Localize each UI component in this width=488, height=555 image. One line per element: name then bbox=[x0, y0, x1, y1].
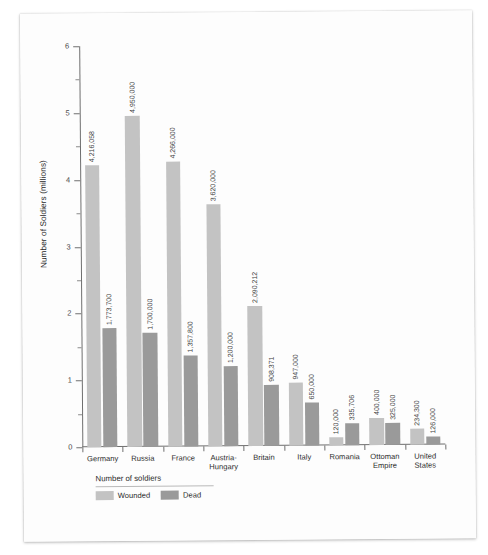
bar-dead bbox=[264, 385, 279, 446]
bar-dead bbox=[385, 423, 400, 445]
bar-value-label: 234,300 bbox=[413, 401, 420, 426]
bar-value-label: 908,371 bbox=[267, 357, 274, 382]
bar-value-label: 1,700,000 bbox=[146, 299, 153, 330]
x-axis-category-label: Italy bbox=[284, 452, 324, 462]
bar-value-label: 4,950,000 bbox=[128, 82, 135, 113]
x-axis-category-label-line: Hungary bbox=[203, 462, 243, 472]
bar-value-label: 2,090,212 bbox=[250, 272, 257, 303]
bar-dead bbox=[305, 402, 320, 446]
bar-dead bbox=[183, 356, 198, 447]
bar-wounded bbox=[85, 165, 102, 447]
x-axis-tick bbox=[203, 446, 204, 451]
x-axis-category-label-line: United bbox=[405, 451, 445, 461]
bar-dead bbox=[224, 366, 239, 446]
bar-value-label: 1,773,700 bbox=[105, 294, 112, 325]
bar-value-label: 4,266,000 bbox=[169, 127, 176, 158]
paper-surface: 0123456 Number of Soldiers (millions) 4,… bbox=[20, 10, 476, 542]
bar-wounded bbox=[329, 437, 344, 445]
x-axis-tick bbox=[82, 447, 83, 452]
legend-swatch bbox=[161, 491, 179, 500]
x-axis-category-label: Austria-Hungary bbox=[203, 453, 243, 472]
x-axis-tick bbox=[445, 444, 446, 449]
x-axis-category-label-line: Britain bbox=[244, 453, 284, 463]
y-axis-tick-label: 6 bbox=[20, 42, 69, 50]
x-axis-category-label: Germany bbox=[82, 454, 122, 464]
x-axis-category-label: OttomanEmpire bbox=[365, 452, 405, 471]
legend-label: Dead bbox=[183, 490, 201, 499]
bar-wounded bbox=[247, 306, 263, 446]
bar-dead bbox=[345, 423, 360, 446]
bar-dead bbox=[143, 333, 158, 447]
chart-legend: Number of soldiers WoundedDead bbox=[96, 473, 306, 501]
bar-wounded bbox=[125, 116, 142, 447]
x-axis-tick bbox=[163, 447, 164, 452]
plot-region: 4,216,0581,773,7004,950,0001,700,0004,26… bbox=[79, 44, 438, 448]
bar-wounded bbox=[166, 161, 183, 446]
x-axis-category-label-line: France bbox=[163, 453, 203, 463]
y-axis-title: Number of Soldiers (millions) bbox=[38, 104, 49, 324]
bar-chart: 0123456 Number of Soldiers (millions) 4,… bbox=[20, 10, 476, 542]
x-axis-category-label-line: Empire bbox=[365, 461, 405, 471]
legend-item: Wounded bbox=[96, 491, 150, 500]
x-axis-category-label: UnitedStates bbox=[405, 451, 445, 470]
x-axis-category-label-line: Italy bbox=[284, 452, 324, 462]
x-axis-category-label: France bbox=[163, 453, 203, 463]
bar-value-label: 335,706 bbox=[348, 394, 355, 419]
bar-dead bbox=[426, 436, 441, 445]
x-axis-category-label-line: Austria- bbox=[203, 453, 243, 463]
x-axis-category-labels: GermanyRussiaFranceAustria-HungaryBritai… bbox=[20, 10, 472, 14]
x-axis-category-label: Britain bbox=[244, 453, 284, 463]
x-axis-tick bbox=[324, 445, 325, 450]
x-axis-tick bbox=[284, 446, 285, 451]
x-axis-tick bbox=[244, 446, 245, 451]
bar-value-label: 120,000 bbox=[332, 409, 339, 434]
bar-dead bbox=[102, 329, 117, 448]
legend-items: WoundedDead bbox=[96, 490, 306, 501]
x-axis-tick bbox=[365, 445, 366, 450]
x-axis-category-label-line: Ottoman bbox=[365, 452, 405, 462]
bar-wounded bbox=[410, 429, 425, 445]
legend-divider bbox=[96, 485, 214, 487]
legend-swatch bbox=[96, 491, 114, 500]
bar-value-label: 650,000 bbox=[308, 374, 315, 399]
x-axis-category-label-line: Russia bbox=[123, 454, 163, 464]
bar-value-label: 3,620,000 bbox=[209, 170, 216, 201]
bar-value-label: 126,000 bbox=[429, 408, 436, 433]
x-axis-category-label: Romania bbox=[324, 452, 364, 462]
y-axis-tick-label: 1 bbox=[23, 377, 72, 385]
x-axis-tick bbox=[405, 445, 406, 450]
bar-value-label: 1,200,000 bbox=[227, 332, 234, 363]
bar-value-label: 400,000 bbox=[372, 390, 379, 415]
bar-value-label: 4,216,058 bbox=[88, 131, 95, 162]
bar-wounded bbox=[206, 204, 222, 446]
bar-wounded bbox=[288, 382, 303, 445]
x-axis-category-label: Russia bbox=[123, 454, 163, 464]
bar-wounded bbox=[369, 418, 384, 445]
bar-value-label: 325,000 bbox=[388, 395, 395, 420]
y-axis-tick-label: 0 bbox=[23, 443, 72, 451]
y-axis-ticks bbox=[20, 10, 472, 14]
bar-value-label: 1,357,800 bbox=[186, 322, 193, 353]
legend-label: Wounded bbox=[118, 491, 150, 500]
paper-sheet: 0123456 Number of Soldiers (millions) 4,… bbox=[20, 10, 476, 542]
x-axis-category-label-line: Romania bbox=[324, 452, 364, 462]
x-axis-category-label-line: States bbox=[405, 461, 445, 471]
bar-value-label: 947,000 bbox=[291, 354, 298, 379]
x-axis-tick bbox=[123, 447, 124, 452]
x-axis-category-label-line: Germany bbox=[82, 454, 122, 464]
legend-title: Number of soldiers bbox=[96, 473, 306, 484]
legend-item: Dead bbox=[161, 490, 201, 499]
